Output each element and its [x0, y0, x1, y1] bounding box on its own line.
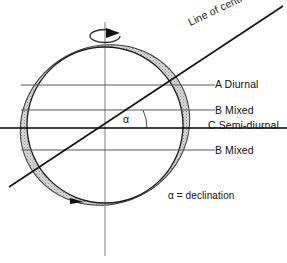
diagram-svg: [0, 0, 287, 263]
tidal-bulge-band: [0, 0, 287, 263]
diagram-canvas: Line of centres A Diurnal B Mixed C Semi…: [0, 0, 287, 263]
label-band-b-mixed-upper: B Mixed: [215, 104, 254, 116]
label-band-b-mixed-lower: B Mixed: [215, 144, 254, 156]
label-band-c-semi-diurnal: C Semi-diurnal: [208, 119, 279, 131]
label-band-a-diurnal: A Diurnal: [215, 78, 259, 90]
label-declination-note: α = declination: [168, 190, 235, 201]
label-angle-alpha: α: [123, 113, 129, 125]
